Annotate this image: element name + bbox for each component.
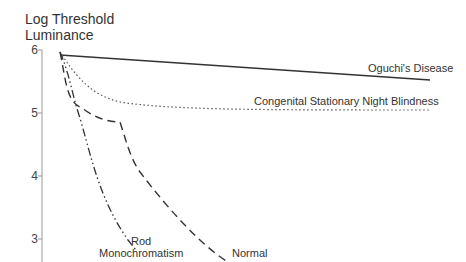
chart-plot — [0, 0, 466, 262]
series-rod-monochromatism — [60, 52, 136, 250]
label-csnb: Congenital Stationary Night Blindness — [254, 95, 439, 107]
label-rod: Rod — [131, 235, 151, 247]
label-monochromatism: Monochromatism — [99, 247, 183, 259]
label-oguchi: Oguchi's Disease — [368, 62, 453, 74]
label-normal: Normal — [232, 247, 267, 259]
